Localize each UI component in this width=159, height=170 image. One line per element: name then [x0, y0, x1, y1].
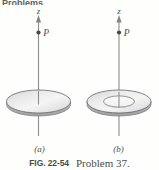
figure-caption: FIG. 22-54 Problem 37. [0, 156, 159, 170]
figure-container: Problems [0, 0, 159, 170]
page-running-header: Problems [2, 0, 72, 5]
point-p-marker-b [117, 30, 121, 34]
point-p-label-b: P [123, 28, 130, 38]
point-p-marker-a [36, 30, 40, 34]
annulus-diagram-svg: z P [79, 8, 158, 146]
figure-number: FIG. 22-54 [29, 158, 69, 168]
figure-panel-b: z P [79, 8, 158, 146]
figure-panel-a: z P [0, 8, 79, 146]
figure-panels: z P [0, 8, 159, 146]
figure-caption-text: Problem 37. [76, 157, 130, 169]
disk-diagram-svg: z P [0, 8, 79, 146]
panel-sublabel-a: (a) [0, 144, 79, 154]
z-axis-label-a: z [36, 8, 41, 16]
z-axis-label-b: z [116, 8, 121, 16]
point-p-label-a: P [42, 28, 49, 38]
panel-sublabel-b: (b) [79, 144, 158, 154]
